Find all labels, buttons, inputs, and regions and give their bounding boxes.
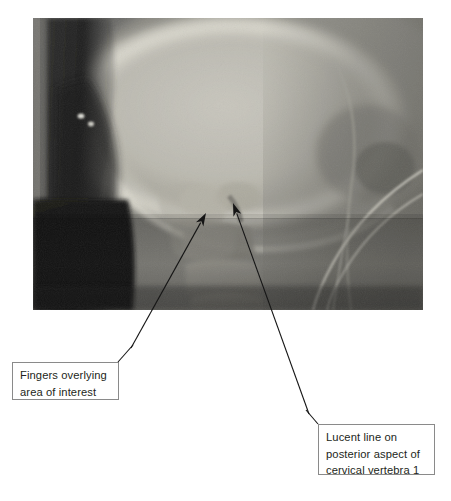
radiograph-content [33, 18, 423, 310]
film-tone-overlay [33, 18, 423, 310]
caption-box-fingers: Fingers overlying area of interest [12, 362, 119, 400]
leader-line-fingers [118, 345, 133, 362]
caption-line: area of interest [20, 384, 111, 401]
leader-line-lucent [306, 410, 318, 424]
caption-line: cervical vertebra 1 [326, 462, 427, 479]
caption-line: posterior aspect of [326, 446, 427, 463]
figure-root: Fingers overlying area of interest Lucen… [0, 0, 451, 501]
caption-box-lucent: Lucent line on posterior aspect of cervi… [318, 424, 435, 475]
caption-line: Lucent line on [326, 429, 427, 446]
radiograph-canvas [33, 18, 423, 310]
caption-line: Fingers overlying [20, 367, 111, 384]
lateral-cervical-spine-radiograph [33, 18, 423, 310]
